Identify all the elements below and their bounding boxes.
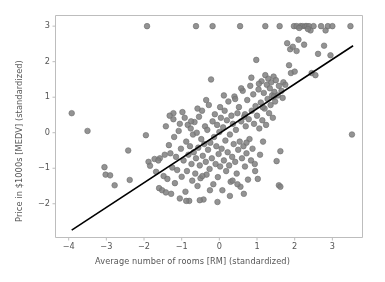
y-axis-label: Price in $1000s [MEDV] (standardized) (14, 0, 24, 282)
plot-canvas (0, 0, 385, 282)
x-axis-label: Average number of rooms [RM] (standardiz… (0, 256, 385, 266)
scatter-plot-figure: Average number of rooms [RM] (standardiz… (0, 0, 385, 282)
